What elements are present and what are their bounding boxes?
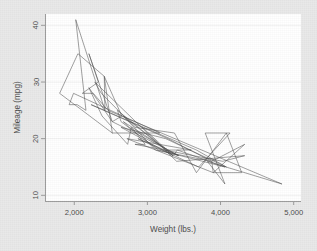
y-axis-tick-labels: 10203040 [32,21,41,199]
x-tick-label: 3,000 [138,208,157,217]
x-axis-title: Weight (lbs.) [150,225,196,234]
y-tick-label: 30 [32,78,41,86]
y-axis-ticks [41,25,45,195]
plot-panel [45,14,301,201]
x-tick-label: 4,000 [211,208,230,217]
x-tick-label: 5,000 [284,208,303,217]
y-tick-label: 40 [32,21,41,29]
chart-canvas: 10203040 2,0003,0004,0005,000 Mileage (m… [0,0,317,251]
y-axis-title: Mileage (mpg) [13,81,22,134]
x-axis-tick-labels: 2,0003,0004,0005,000 [65,208,303,217]
x-tick-label: 2,000 [65,208,84,217]
y-tick-label: 20 [32,134,41,142]
y-tick-label: 10 [32,191,41,199]
chart-figure: 10203040 2,0003,0004,0005,000 Mileage (m… [0,0,317,251]
